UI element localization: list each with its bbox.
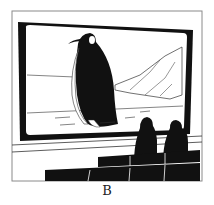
- figure-caption: B: [0, 183, 214, 198]
- penguin-ear-patch: [89, 36, 95, 44]
- cinema-penguin-illustration: [0, 0, 214, 185]
